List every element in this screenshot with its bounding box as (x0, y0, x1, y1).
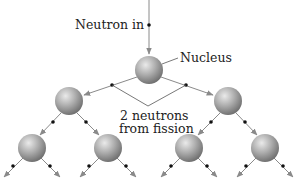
neutron-dot (11, 164, 15, 168)
neutron-in-label: Neutron in (75, 17, 144, 32)
nucleus-sphere (251, 134, 279, 162)
fission-label-line2: from fission (119, 121, 194, 136)
nucleus-sphere (175, 134, 203, 162)
neutron-dot (51, 120, 55, 124)
fission-label-leader (112, 85, 186, 106)
nucleus-label: Nucleus (180, 50, 232, 65)
neutron-dot (48, 164, 52, 168)
neutron-dot (281, 164, 285, 168)
neutron-arrow (198, 113, 220, 135)
neutron-dot (87, 164, 91, 168)
neutron-dot (169, 164, 173, 168)
nucleus-sphere (55, 87, 83, 115)
neutron-dot (147, 23, 151, 27)
neutron-dot (124, 164, 128, 168)
neutron-arrow (84, 77, 137, 95)
fission-neutrons-level-3 (4, 158, 293, 177)
neutron-arrow (236, 113, 257, 135)
nucleus-sphere (135, 56, 163, 84)
neutron-dot (209, 120, 213, 124)
nucleus-sphere (214, 87, 242, 115)
incoming-neutron (147, 0, 151, 54)
fission-chain-diagram: Neutron in Nucleus 2 neutrons from fissi… (0, 0, 302, 187)
neutron-dot (205, 164, 209, 168)
nucleus-leader-line (162, 58, 178, 64)
nucleus-sphere (94, 134, 122, 162)
neutron-arrow (77, 113, 99, 135)
neutron-arrow (40, 113, 61, 135)
neutron-dot (244, 164, 248, 168)
neutron-dot (84, 120, 88, 124)
neutron-dot (243, 120, 247, 124)
nucleus-sphere (18, 134, 46, 162)
